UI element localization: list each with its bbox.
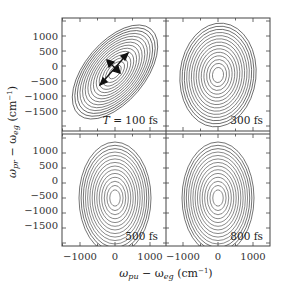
- y-tick-labels-top: 1000 500 0 −500 −1000 −1500: [24, 31, 58, 117]
- contour-line: [208, 63, 227, 88]
- contour-line: [210, 185, 226, 210]
- panel-label-500fs: 500 fs: [125, 230, 158, 242]
- x-tick-0-left: 0: [112, 251, 118, 262]
- panel-label-300fs: 300 fs: [230, 114, 263, 126]
- y-title-unit: (cm: [6, 100, 19, 125]
- contour-line: [193, 43, 242, 107]
- contour-line: [90, 159, 140, 237]
- x-tick-neg1000-left: −1000: [63, 251, 97, 262]
- y-tick-neg1000: −1000: [24, 91, 58, 102]
- y-tick-neg500: −500: [31, 76, 58, 87]
- x-tick-1000-left: 1000: [137, 251, 162, 262]
- contour-line: [110, 190, 120, 206]
- x-tick-neg1000-right: −1000: [166, 251, 200, 262]
- contour-line: [94, 166, 135, 230]
- contour-line: [104, 181, 126, 214]
- contour-figure: 1000 500 0 −500 −1000 −1500 1000 500 0 −…: [0, 0, 286, 291]
- y-axis-title: ωpr − ωeg (cm−1): [6, 86, 20, 178]
- contour-line: [202, 173, 234, 222]
- x-title-close: ): [208, 267, 212, 280]
- contour-line: [197, 166, 238, 230]
- contour-line: [199, 51, 237, 100]
- y-tick-labels-bottom: 1000 500 0 −500 −1000 −1500: [24, 145, 58, 231]
- contour-line: [183, 29, 254, 120]
- contour-line: [88, 155, 143, 240]
- y-tick-neg1000-b: −1000: [24, 205, 58, 216]
- contour-line: [205, 177, 232, 218]
- panel-frames: [62, 18, 270, 246]
- y-title-sub-eg: eg: [11, 125, 20, 135]
- y-tick-neg500-b: −500: [31, 190, 58, 201]
- contour-line: [102, 177, 129, 218]
- y-tick-0: 0: [52, 61, 58, 72]
- x-title-exp: −1: [198, 267, 208, 275]
- contour-line: [188, 36, 248, 114]
- panel-label-100fs: T = 100 fs: [103, 114, 158, 126]
- y-title-close: ): [6, 86, 19, 90]
- y-tick-1000: 1000: [33, 31, 58, 42]
- x-tick-1000-right: 1000: [240, 251, 265, 262]
- contour-line: [207, 181, 229, 214]
- x-title-minus: − ω: [139, 267, 164, 280]
- contour-line: [212, 67, 225, 83]
- x-title-omega1: ω: [119, 267, 128, 280]
- y-tick-neg1500: −1500: [24, 106, 58, 117]
- contour-line: [97, 170, 133, 227]
- y-tick-500: 500: [39, 46, 58, 57]
- x-title-sub-eg: eg: [164, 272, 174, 281]
- x-axis-title: ωpu − ωeg (cm−1): [119, 267, 212, 281]
- y-title-omega1: ω: [6, 169, 19, 178]
- contour-line: [107, 185, 123, 210]
- contour-line: [193, 159, 243, 237]
- y-title-minus: − ω: [6, 135, 19, 160]
- contour-line: [200, 170, 236, 227]
- y-tick-neg1500-b: −1500: [24, 220, 58, 231]
- x-tick-0-right: 0: [215, 251, 221, 262]
- y-tick-0-b: 0: [52, 175, 58, 186]
- contour-line: [213, 190, 223, 206]
- x-title-unit: (cm: [174, 267, 199, 280]
- panel-label-800fs: 800 fs: [230, 230, 263, 242]
- contour-line: [191, 155, 246, 240]
- y-tick-1000-b: 1000: [33, 145, 58, 156]
- x-tick-labels: −1000 0 1000 −1000 0 1000: [63, 251, 266, 262]
- y-tick-500-b: 500: [39, 160, 58, 171]
- x-title-sub-pu: pu: [128, 272, 138, 281]
- panel-label-100fs-rest: = 100 fs: [110, 114, 158, 126]
- y-title-exp: −1: [6, 90, 14, 100]
- contour-groups: [56, 10, 261, 254]
- contour-line: [99, 173, 131, 222]
